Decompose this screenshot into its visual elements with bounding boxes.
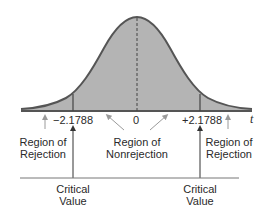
nonrejection-line1: Region of [102, 136, 172, 148]
left-critical-value-label: Critical Value [48, 183, 98, 207]
left-critical-line2: Value [48, 195, 98, 207]
right-rejection-label: Region of Rejection [204, 136, 254, 160]
right-critical-value-label: Critical Value [175, 183, 225, 207]
nonrejection-arrow-left [108, 116, 124, 130]
nonrejection-arrow-right [150, 116, 166, 130]
tick-left-critical: −2.1788 [53, 114, 93, 126]
left-critical-line1: Critical [48, 183, 98, 195]
tick-zero: 0 [133, 114, 139, 126]
right-rejection-line1: Region of [204, 136, 254, 148]
right-rejection-line2: Rejection [204, 148, 254, 160]
right-critical-line2: Value [175, 195, 225, 207]
right-critical-line1: Critical [175, 183, 225, 195]
nonrejection-line2: Nonrejection [102, 148, 172, 160]
diagram-graphics [0, 0, 267, 218]
nonrejection-label: Region of Nonrejection [102, 136, 172, 160]
left-rejection-line1: Region of [18, 136, 68, 148]
t-distribution-diagram: −2.1788 0 +2.1788 t Region of Rejection … [0, 0, 267, 218]
tick-right-critical: +2.1788 [182, 114, 222, 126]
left-rejection-line2: Rejection [18, 148, 68, 160]
t-axis-label: t [250, 113, 253, 125]
left-rejection-label: Region of Rejection [18, 136, 68, 160]
